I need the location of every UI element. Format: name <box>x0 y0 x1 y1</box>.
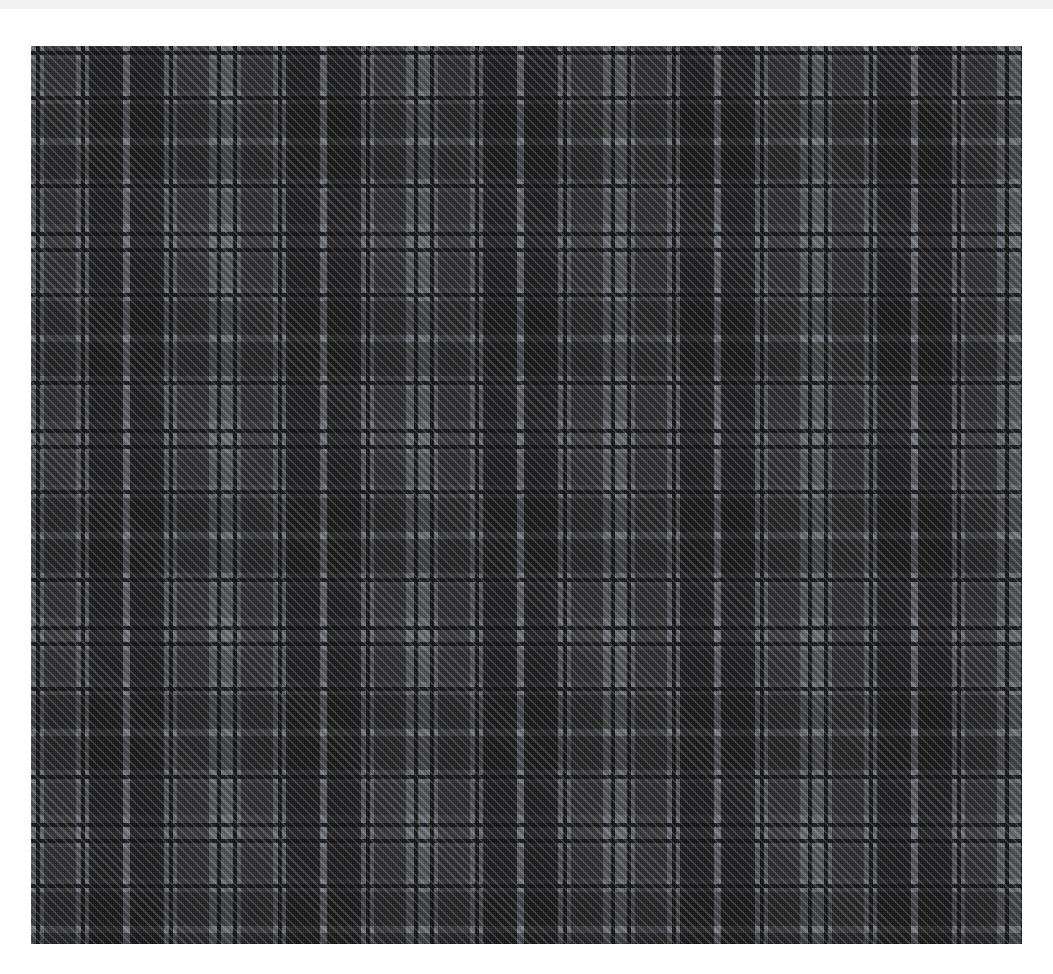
cropped-text-remnant <box>0 0 1053 9</box>
yarn-grain-texture-layer <box>31 46 1022 944</box>
tartan-fabric-swatch <box>31 46 1022 944</box>
